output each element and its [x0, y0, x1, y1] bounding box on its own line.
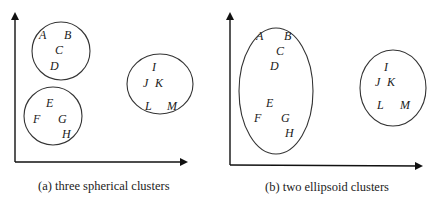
point-label: M	[399, 98, 411, 112]
x-axis-arrow-icon	[230, 165, 421, 166]
point-label: J	[375, 75, 381, 89]
point-label: K	[386, 75, 396, 89]
point-label: D	[49, 59, 59, 73]
panel-a-caption: (a) three spherical clusters	[38, 179, 170, 193]
point-label: C	[276, 44, 285, 58]
point-label: C	[55, 43, 64, 57]
point-label: L	[144, 99, 152, 113]
panel-a: A B C D E F G H I J K L M (a) three sphe…	[15, 14, 193, 193]
point-label: B	[284, 29, 292, 43]
panel-b-points: A B C D E F G H I J K L M	[253, 29, 411, 140]
point-label: G	[58, 112, 67, 126]
point-label: K	[154, 76, 164, 90]
point-label: F	[32, 112, 41, 126]
panel-a-points: A B C D E F G H I J K L M	[32, 28, 178, 141]
point-label: A	[38, 28, 47, 42]
point-label: G	[281, 111, 290, 125]
point-label: D	[269, 59, 279, 73]
point-label: H	[284, 126, 295, 140]
point-label: I	[383, 60, 389, 74]
point-label: E	[265, 96, 274, 110]
panel-b-caption: (b) two ellipsoid clusters	[265, 180, 389, 194]
point-label: F	[253, 111, 262, 125]
point-label: B	[64, 28, 72, 42]
point-label: E	[45, 96, 54, 110]
panel-b: A B C D E F G H I J K L M (b) two ellips…	[230, 14, 426, 194]
cluster-diagram: A B C D E F G H I J K L M (a) three sphe…	[0, 0, 439, 202]
point-label: J	[143, 76, 149, 90]
point-label: M	[166, 99, 178, 113]
point-label: H	[61, 127, 72, 141]
point-label: I	[151, 60, 157, 74]
point-label: L	[376, 98, 384, 112]
point-label: A	[255, 29, 264, 43]
